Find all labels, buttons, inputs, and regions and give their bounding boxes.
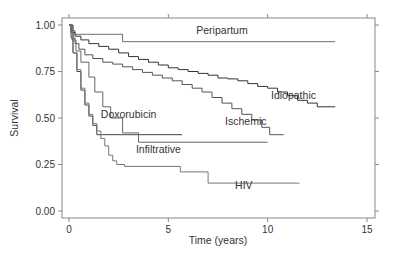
curve-label-doxorubicin: Doxorubicin — [101, 108, 157, 120]
x-axis-ticks: 051015 — [66, 14, 373, 235]
survival-curves — [69, 25, 335, 183]
curve-hiv — [69, 25, 300, 183]
x-axis-label: Time (years) — [189, 234, 248, 246]
curve-label-infiltrative: Infiltrative — [136, 143, 181, 155]
survival-chart: PeripartumIdiopathicIschemicDoxorubicinI… — [0, 0, 395, 261]
x-tick-label: 0 — [66, 224, 72, 235]
y-tick-label: 0.00 — [36, 206, 56, 217]
x-tick-label: 5 — [166, 224, 172, 235]
y-tick-label: 1.00 — [36, 20, 56, 31]
curve-label-ischemic: Ischemic — [225, 115, 266, 127]
x-tick-label: 10 — [262, 224, 274, 235]
y-tick-label: 0.75 — [36, 66, 56, 77]
x-tick-label: 15 — [361, 224, 373, 235]
y-tick-label: 0.25 — [36, 159, 56, 170]
y-axis-label: Survival — [8, 99, 20, 136]
curve-label-idiopathic: Idiopathic — [271, 89, 316, 101]
curve-label-peripartum: Peripartum — [196, 24, 248, 36]
y-tick-label: 0.50 — [36, 113, 56, 124]
curve-label-hiv: HIV — [235, 179, 253, 191]
y-axis-ticks: 0.000.250.500.751.00 — [36, 20, 379, 217]
curve-labels: PeripartumIdiopathicIschemicDoxorubicinI… — [101, 24, 316, 190]
